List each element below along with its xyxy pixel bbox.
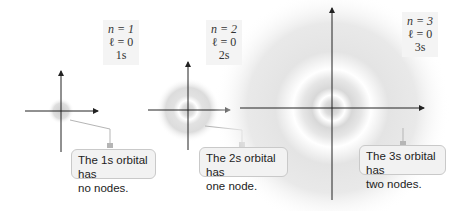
leader-line-1s xyxy=(70,120,110,145)
callout-1s: The 1s orbital has no nodes. xyxy=(71,149,156,179)
callout-2s: The 2s orbital has one node. xyxy=(199,147,288,177)
callout-text-line2: no nodes. xyxy=(78,181,149,195)
callout-text-line1: The 2s orbital has xyxy=(206,151,281,179)
quantum-numbers-1s: n = 1 ℓ = 0 1s xyxy=(103,20,139,65)
callout-text-line1: The 3s orbital has xyxy=(366,149,439,177)
callout-text-line2: one node. xyxy=(206,179,281,193)
callout-text-line1: The 1s orbital has xyxy=(78,153,149,181)
orbital-label: 3s xyxy=(406,41,434,54)
quantum-numbers-3s: n = 3 ℓ = 0 3s xyxy=(402,12,438,57)
leader-anchor-1s xyxy=(107,143,113,148)
orbital-label: 1s xyxy=(107,49,135,62)
quantum-numbers-2s: n = 2 ℓ = 0 2s xyxy=(206,20,242,65)
callout-text-line2: two nodes. xyxy=(366,177,439,191)
callout-3s: The 3s orbital has two nodes. xyxy=(359,145,446,175)
orbital-label: 2s xyxy=(210,49,238,62)
orbital-1s-plot xyxy=(25,71,113,152)
